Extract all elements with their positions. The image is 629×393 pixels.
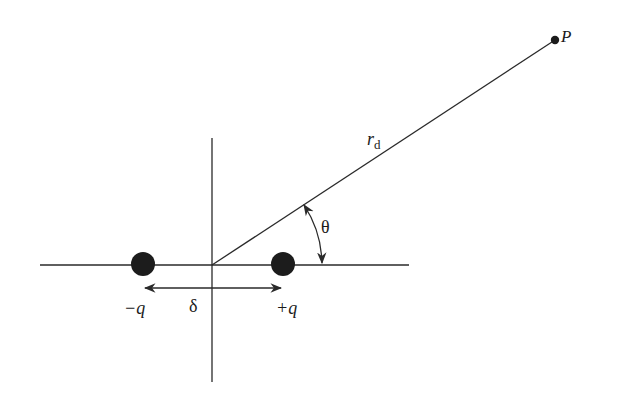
dipole-diagram: P rd θ −q δ +q — [0, 0, 629, 393]
distance-line-rd — [212, 40, 555, 265]
separation-label-delta: δ — [189, 296, 197, 316]
negative-charge — [131, 252, 155, 276]
angle-label-theta: θ — [321, 217, 330, 237]
distance-label-subscript: d — [374, 137, 381, 152]
point-p-dot — [551, 36, 559, 44]
negative-charge-label: −q — [124, 298, 145, 318]
point-p-label: P — [560, 27, 571, 46]
positive-charge-label: +q — [276, 298, 297, 318]
angle-arc-theta — [304, 205, 322, 263]
positive-charge — [271, 252, 295, 276]
distance-label-rd: rd — [367, 129, 381, 152]
